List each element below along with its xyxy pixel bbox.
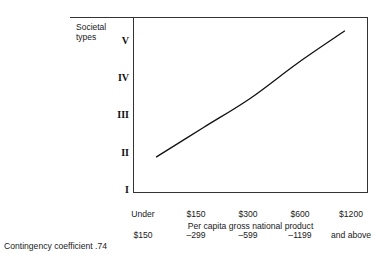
x-axis-title: Per capita gross national product bbox=[133, 221, 368, 231]
y-tick-label-I: I bbox=[105, 184, 129, 195]
x-tick-line1: $1200 bbox=[316, 209, 386, 220]
chart-figure: Societal types V IV III II I Under $150 … bbox=[0, 0, 388, 262]
series-line-societal-types bbox=[133, 17, 368, 193]
y-tick-label-III: III bbox=[105, 109, 129, 120]
y-axis-title-line1: Societal bbox=[76, 22, 132, 32]
figure-caption: Contingency coefficient .74 bbox=[4, 241, 107, 251]
y-tick-label-V: V bbox=[105, 35, 129, 46]
x-tick-line2: and above bbox=[316, 230, 386, 241]
y-tick-label-II: II bbox=[105, 147, 129, 158]
y-tick-label-IV: IV bbox=[105, 72, 129, 83]
plot-area bbox=[133, 17, 368, 193]
